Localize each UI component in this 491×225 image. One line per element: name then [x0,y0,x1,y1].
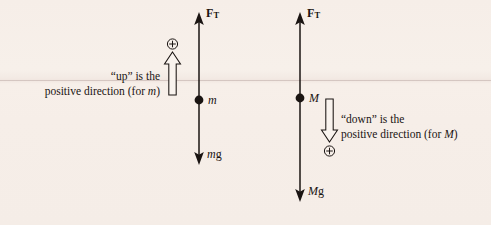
left-caption-line-2: positive direction (for m) [14,84,160,99]
right-caption-line-2: positive direction (for M) [341,127,491,142]
left-weight-mass-symbol: m [207,147,216,161]
left-caption-line-1: “up” is the [14,69,160,84]
right-weight-mass-symbol: M [308,184,318,198]
right-caption-line-1: “down” is the [341,112,491,127]
right-tension-label: FT [307,6,320,20]
left-tension-subscript: T [213,10,219,20]
figure-canvas: FT m mg “up” is the positive direction (… [0,0,491,225]
right-mass-label: M [309,91,319,105]
left-caption-line-2-suffix: ) [156,85,160,97]
right-mass-dot [296,94,305,103]
right-weight-label: Mg [308,184,324,198]
left-convention-caption: “up” is the positive direction (for m) [14,69,160,99]
left-mass-dot [195,96,204,105]
left-weight-label: mg [207,147,222,161]
left-mass-label: m [208,93,217,107]
left-tension-label: FT [206,6,219,20]
left-positive-direction-arrow [165,52,181,95]
right-caption-line-2-prefix: positive direction (for [341,128,444,140]
right-weight-gravity-symbol: g [318,184,324,198]
right-caption-line-2-symbol: M [444,128,454,140]
right-force-axis [295,12,305,202]
right-positive-direction-arrow [322,99,338,142]
right-tension-subscript: T [314,10,320,20]
right-caption-line-2-suffix: ) [454,128,458,140]
left-plus-sign-icon [167,39,177,49]
left-weight-gravity-symbol: g [216,147,222,161]
left-force-axis [194,12,204,165]
left-caption-line-2-prefix: positive direction (for [45,85,148,97]
left-caption-line-2-symbol: m [148,85,156,97]
right-convention-caption: “down” is the positive direction (for M) [341,112,491,142]
right-plus-sign-icon [324,146,334,156]
